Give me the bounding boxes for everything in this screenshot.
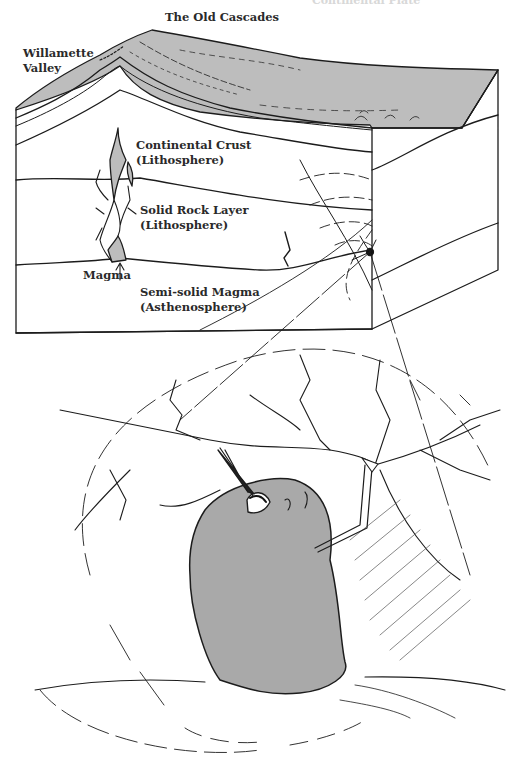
magnified-view <box>35 349 505 752</box>
label-willamette-valley: Willamette Valley <box>23 46 94 76</box>
label-willamette-line1: Willamette <box>23 46 94 61</box>
label-old-cascades: The Old Cascades <box>165 10 279 25</box>
label-semisolid-line1: Semi-solid Magma <box>140 285 260 300</box>
label-solid-line2: (Lithosphere) <box>140 218 249 233</box>
label-solid-line1: Solid Rock Layer <box>140 203 249 218</box>
magma-blob <box>190 479 346 694</box>
label-magma: Magma <box>83 268 131 283</box>
asthenosphere-boundary <box>16 250 372 270</box>
label-semi-solid-magma: Semi-solid Magma (Asthenosphere) <box>140 285 260 315</box>
label-crust-line2: (Lithosphere) <box>136 153 251 168</box>
label-crust-line1: Continental Crust <box>136 138 251 153</box>
pressure-hatching <box>350 500 470 660</box>
label-continental-crust: Continental Crust (Lithosphere) <box>136 138 251 168</box>
geology-illustration <box>0 0 530 770</box>
label-willamette-line2: Valley <box>23 61 94 76</box>
seismic-waves <box>300 173 372 300</box>
label-solid-rock-layer: Solid Rock Layer (Lithosphere) <box>140 203 249 233</box>
label-semisolid-line2: (Asthenosphere) <box>140 300 260 315</box>
magma-dikes <box>96 128 136 262</box>
